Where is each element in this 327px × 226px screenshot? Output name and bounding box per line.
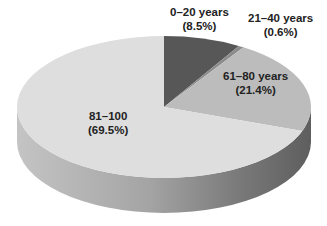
label-81-100: 81–100 (69.5%) (88, 109, 128, 137)
label-0-20: 0–20 years (8.5%) (170, 5, 229, 33)
pie-slices (17, 36, 311, 178)
label-21-40: 21–40 years (0.6%) (248, 11, 313, 39)
label-61-80: 61–80 years (21.4%) (223, 69, 288, 97)
